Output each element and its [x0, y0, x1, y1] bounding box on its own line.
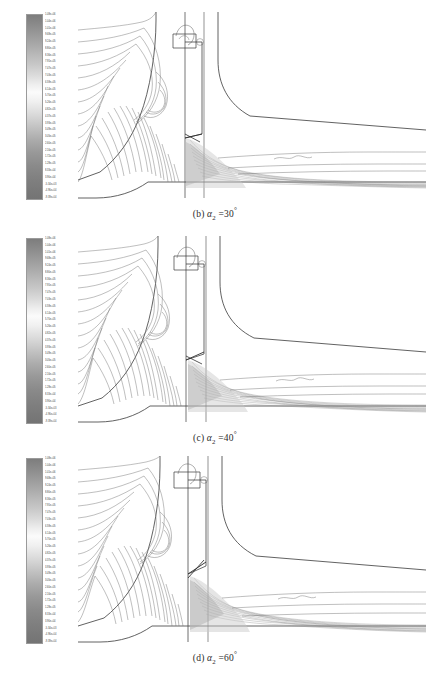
colorbar-gradient-c: [26, 238, 43, 424]
panel-tag-b: (b): [193, 209, 205, 219]
panel-b: 1.08e+061.04e+061.01e+069.68e+059.24e+05…: [0, 8, 430, 220]
colorbar-gradient-d: [26, 458, 43, 644]
panel-value-c: 40: [224, 433, 234, 443]
panel-tag-c: (c): [193, 433, 204, 443]
panel-value-b: 30: [224, 209, 234, 219]
panel-degree-d: °: [234, 650, 237, 659]
panel-tag-d: (d): [193, 653, 205, 663]
panel-degree-c: °: [234, 430, 237, 439]
contour-plot-c: [78, 236, 426, 430]
panel-value-d: 60: [224, 653, 234, 663]
panel-caption-c: (c) α2 =40°: [0, 430, 430, 445]
panel-caption-b: (b) α2 =30°: [0, 206, 430, 221]
panel-subscript-c: 2: [212, 438, 216, 445]
panel-d: 1.08e+061.04e+061.01e+069.68e+059.24e+05…: [0, 452, 430, 666]
contour-plot-b: [78, 12, 426, 206]
panel-caption-d: (d) α2 =60°: [0, 650, 430, 665]
panel-subscript-b: 2: [212, 214, 216, 221]
panel-c: 1.08e+061.04e+061.01e+069.68e+059.24e+05…: [0, 232, 430, 444]
panel-degree-b: °: [234, 206, 237, 215]
colorbar-gradient-b: [26, 14, 43, 200]
contour-plot-d: [78, 456, 426, 650]
panel-subscript-d: 2: [212, 658, 216, 665]
figure-page: 1.08e+061.04e+061.01e+069.68e+059.24e+05…: [0, 0, 430, 674]
